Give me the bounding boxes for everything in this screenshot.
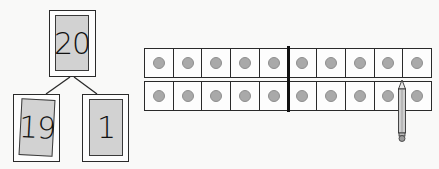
frame-cell [403, 49, 431, 77]
frame-cell [174, 49, 203, 77]
counter-dot [296, 90, 308, 102]
counter-dot [325, 90, 337, 102]
frame-cell [174, 82, 203, 110]
counter-dot [296, 57, 308, 69]
frame-cell [375, 49, 404, 77]
counter-dot [268, 90, 280, 102]
frame-cell [317, 49, 346, 77]
counter-dot [239, 57, 251, 69]
counter-dot [239, 90, 251, 102]
counter-dot [210, 90, 222, 102]
frame-cell [346, 82, 375, 110]
counter-dot [382, 57, 394, 69]
frame-cell [231, 49, 260, 77]
frame-cell [202, 49, 231, 77]
counter-dot [382, 90, 394, 102]
counter-dot [354, 90, 366, 102]
whole-number: 20 [54, 26, 90, 61]
counter-dot [153, 90, 165, 102]
ten-frame-divider [287, 46, 290, 112]
frame-cell [289, 82, 318, 110]
part-left-card: 19 [13, 94, 60, 162]
frame-cell [260, 49, 289, 77]
part-left-number: 19 [18, 109, 56, 146]
frame-cell [202, 82, 231, 110]
frame-cell [231, 82, 260, 110]
whole-card: 20 [49, 10, 96, 77]
counter-dot [268, 57, 280, 69]
frame-cell [145, 49, 174, 77]
counter-dot [411, 90, 423, 102]
frame-cell [403, 82, 431, 110]
frame-cell [260, 82, 289, 110]
counter-dot [153, 57, 165, 69]
frame-cell [317, 82, 346, 110]
pencil-icon [397, 80, 407, 142]
counter-dot [411, 57, 423, 69]
frame-cell [346, 49, 375, 77]
counter-dot [354, 57, 366, 69]
counter-dot [182, 90, 194, 102]
counter-dot [210, 57, 222, 69]
frame-cell [289, 49, 318, 77]
part-right-number: 1 [97, 110, 115, 145]
counter-dot [182, 57, 194, 69]
counter-dot [325, 57, 337, 69]
part-right-card: 1 [82, 94, 129, 162]
frame-cell [145, 82, 174, 110]
